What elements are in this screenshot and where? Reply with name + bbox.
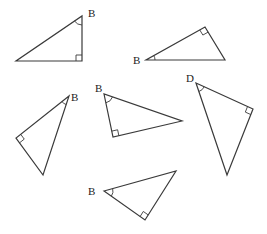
triangle-outline: [196, 83, 253, 175]
triangle-outline: [146, 27, 225, 60]
triangle-outline: [16, 96, 69, 175]
right-triangle: B: [88, 171, 176, 220]
vertex-label: B: [95, 82, 102, 94]
vertex-label: B: [71, 91, 78, 103]
angle-arc-icon: [199, 87, 204, 92]
right-triangle: D: [186, 72, 253, 175]
triangle-outline: [16, 16, 82, 61]
triangle-outline: [104, 171, 176, 220]
angle-arc-icon: [111, 189, 113, 197]
right-triangle: B: [133, 27, 225, 66]
right-angle-icon: [20, 134, 25, 143]
triangles-diagram: BBBBDB: [0, 0, 267, 234]
angle-arc-icon: [106, 97, 113, 103]
right-angle-icon: [76, 55, 82, 61]
angle-arc-icon: [154, 56, 155, 60]
vertex-label: D: [186, 72, 194, 84]
right-triangle: B: [16, 7, 95, 61]
vertex-label: B: [88, 185, 95, 197]
angle-arc-icon: [75, 21, 82, 25]
angle-arc-icon: [62, 102, 66, 105]
vertex-label: B: [133, 54, 140, 66]
right-triangle: B: [95, 82, 182, 137]
right-triangle: B: [16, 91, 78, 175]
diagram-canvas: BBBBDB: [0, 0, 267, 234]
vertex-label: B: [88, 7, 95, 19]
